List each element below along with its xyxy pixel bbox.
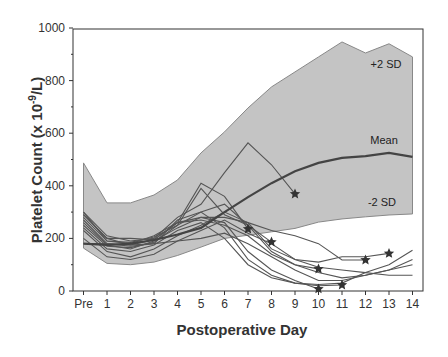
x-tick-label: 9 [292, 297, 299, 311]
x-tick-label: 13 [382, 297, 396, 311]
x-tick-label: 12 [359, 297, 373, 311]
y-axis-title: Platelet Count (x 10-9/L) [27, 77, 45, 243]
x-tick-label: 3 [151, 297, 158, 311]
y-tick-label: 400 [45, 179, 65, 193]
x-tick-label: 2 [127, 297, 134, 311]
y-tick-label: 800 [45, 74, 65, 88]
upper-sd-label: +2 SD [371, 58, 402, 70]
y-axis-title-main: Platelet Count (x 10 [28, 104, 45, 243]
platelet-chart: 02004006008001000Pre1234567891011121314 … [0, 0, 448, 357]
y-tick-label: 0 [58, 284, 65, 298]
y-tick-label: 200 [45, 231, 65, 245]
x-tick-label: 7 [245, 297, 252, 311]
y-tick-label: 1000 [38, 21, 65, 35]
x-tick-label: 10 [312, 297, 326, 311]
mean-label: Mean [370, 134, 398, 146]
x-tick-label: 1 [104, 297, 111, 311]
x-tick-label: Pre [74, 297, 93, 311]
x-tick-label: 6 [221, 297, 228, 311]
x-tick-label: 14 [406, 297, 420, 311]
y-axis-title-end: /L) [28, 77, 45, 95]
x-tick-label: 8 [268, 297, 275, 311]
x-tick-label: 5 [198, 297, 205, 311]
x-tick-label: 4 [174, 297, 181, 311]
star-icon [384, 248, 394, 258]
y-tick-label: 600 [45, 126, 65, 140]
lower-sd-label: -2 SD [368, 196, 396, 208]
x-axis-title: Postoperative Day [177, 321, 309, 338]
x-tick-label: 11 [336, 297, 349, 311]
svg-text:Platelet Count (x 10-9/L): Platelet Count (x 10-9/L) [27, 77, 45, 243]
